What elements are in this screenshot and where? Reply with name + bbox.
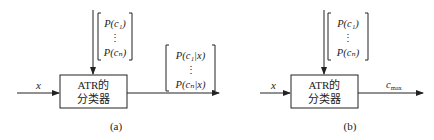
left-bracket: [166, 45, 169, 91]
diagram-b: x ATR的 分类器 P(c₁) ⋮ P(cₙ) cmax (b): [260, 10, 423, 133]
block-label-line1-a: ATR的: [78, 78, 110, 91]
prior-entry-last: P(cₙ): [103, 47, 127, 59]
output-label-sub: max: [391, 84, 403, 91]
caption-b: (b): [344, 120, 357, 133]
prior-vector-b: P(c₁) ⋮ P(cₙ): [328, 13, 368, 60]
prior-entry-last: P(cₙ): [336, 47, 360, 59]
prior-entry-first: P(c₁): [336, 18, 359, 30]
input-label-a: x: [35, 79, 41, 91]
posterior-entry-last: P(cₙ|x): [175, 79, 206, 91]
prior-entry-ellipsis: ⋮: [343, 32, 353, 43]
prior-vector-a: P(c₁) ⋮ P(cₙ): [98, 13, 132, 60]
prior-entry-first: P(c₁): [103, 18, 126, 30]
posterior-entry-first: P(c₁|x): [175, 50, 206, 62]
right-bracket: [129, 13, 132, 60]
block-label-line1-b: ATR的: [309, 78, 341, 91]
left-bracket: [328, 13, 331, 60]
posterior-vector-a: P(c₁|x) ⋮ P(cₙ|x): [166, 45, 215, 91]
output-label-b: cmax: [386, 79, 403, 91]
input-label-b: x: [270, 79, 276, 91]
caption-a: (a): [110, 120, 123, 133]
right-bracket: [365, 13, 368, 60]
figure: x ATR的 分类器 P(c₁) ⋮ P(cₙ) P(c₁|x) ⋮ P(cₙ|…: [0, 0, 434, 140]
diagram-a: x ATR的 分类器 P(c₁) ⋮ P(cₙ) P(c₁|x) ⋮ P(cₙ|…: [17, 10, 219, 133]
prior-entry-ellipsis: ⋮: [110, 32, 120, 43]
right-bracket: [212, 45, 215, 91]
block-label-line2-b: 分类器: [308, 92, 341, 105]
left-bracket: [98, 13, 101, 60]
block-label-line2-a: 分类器: [77, 92, 110, 105]
posterior-entry-ellipsis: ⋮: [186, 64, 196, 75]
